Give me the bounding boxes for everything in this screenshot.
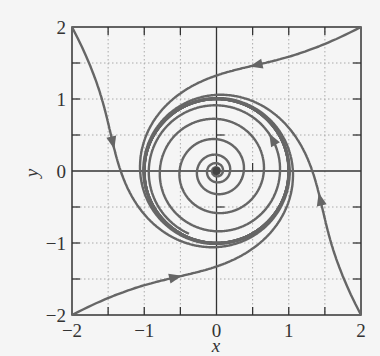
x-tick-label: 2 (356, 320, 366, 341)
y-axis-label: y (21, 168, 42, 179)
y-tick-label: 0 (57, 161, 67, 182)
equilibrium-point (213, 167, 221, 175)
y-tick-label: 2 (57, 17, 67, 38)
x-tick-label: −1 (134, 320, 154, 341)
y-tick-label: 1 (57, 89, 67, 110)
phase-portrait-chart: −2−1012−2−1012 x y (0, 0, 380, 356)
x-tick-label: 1 (284, 320, 294, 341)
y-tick-label: −1 (46, 233, 66, 254)
y-tick-label: −2 (46, 305, 66, 326)
tick-labels: −2−1012−2−1012 (46, 17, 366, 341)
x-axis-label: x (211, 335, 221, 356)
